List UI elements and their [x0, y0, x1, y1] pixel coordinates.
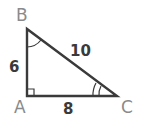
triangle-diagram: B A C 6 10 8	[0, 0, 143, 123]
angle-arc-b	[27, 40, 41, 47]
angle-arc-c-inner	[99, 86, 101, 96]
angle-arc-c-outer	[93, 83, 96, 96]
vertex-label-b: B	[16, 5, 28, 25]
vertex-label-c: C	[121, 97, 133, 117]
side-label-bc: 10	[70, 42, 91, 60]
vertex-label-a: A	[14, 97, 26, 117]
side-label-ab: 6	[9, 58, 19, 76]
triangle-shape	[27, 29, 117, 96]
side-label-ac: 8	[63, 100, 73, 118]
